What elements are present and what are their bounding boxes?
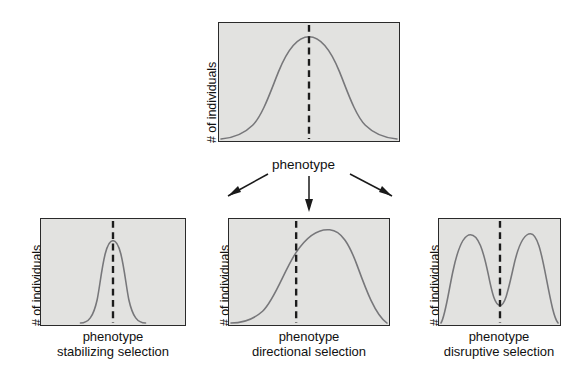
arrow-left-diagonal — [228, 174, 268, 196]
panel-directional-selection — [228, 218, 390, 326]
directional-distribution-plot — [229, 219, 389, 325]
caption-disruptive: phenotype disruptive selection — [431, 329, 567, 359]
caption-directional-type: directional selection — [228, 344, 390, 359]
caption-stabilizing-x-label: phenotype — [83, 329, 144, 344]
branch-label-phenotype: phenotype — [272, 157, 335, 172]
y-axis-label-parent: # of individuals — [205, 62, 219, 143]
disruptive-distribution-plot — [439, 219, 560, 325]
arrow-center-vertical — [305, 176, 313, 212]
caption-directional-x-label: phenotype — [279, 329, 340, 344]
arrow-right-diagonal — [350, 174, 392, 196]
directional-curve — [231, 230, 387, 323]
caption-disruptive-x-label: phenotype — [469, 329, 530, 344]
panel-original-population — [218, 22, 400, 142]
caption-stabilizing-type: stabilizing selection — [40, 344, 186, 359]
panel-disruptive-selection — [438, 218, 561, 326]
stabilizing-distribution-plot — [41, 219, 185, 325]
caption-disruptive-type: disruptive selection — [431, 344, 567, 359]
caption-directional: phenotype directional selection — [228, 329, 390, 359]
parent-distribution-plot — [219, 23, 399, 141]
caption-stabilizing: phenotype stabilizing selection — [40, 329, 186, 359]
panel-stabilizing-selection — [40, 218, 186, 326]
